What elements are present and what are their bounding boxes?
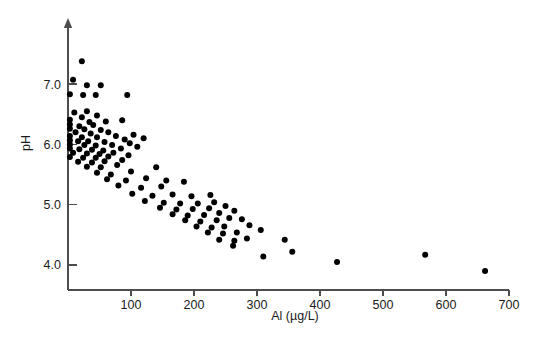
data-point <box>75 138 81 144</box>
data-point <box>231 208 237 214</box>
data-point <box>94 170 100 176</box>
data-point <box>104 176 110 182</box>
tick-labels-group: 1002003004005006007004.05.06.07.0 <box>44 78 520 312</box>
y-axis-arrow-icon <box>64 18 72 28</box>
data-point <box>98 127 104 133</box>
data-point <box>141 135 147 141</box>
data-point <box>89 147 95 153</box>
data-point <box>93 155 99 161</box>
data-point <box>158 184 164 190</box>
data-point <box>244 235 250 241</box>
data-point <box>181 179 187 185</box>
data-point <box>81 126 87 132</box>
data-point <box>153 164 159 170</box>
data-point <box>70 77 76 83</box>
data-point <box>94 134 100 140</box>
data-point <box>75 159 81 165</box>
data-point <box>105 153 111 159</box>
ticks-group <box>68 84 509 296</box>
data-point <box>188 193 194 199</box>
data-point <box>239 216 245 222</box>
data-point <box>289 249 295 255</box>
data-point <box>109 142 115 148</box>
data-point <box>182 217 188 223</box>
data-point <box>108 172 114 178</box>
y-tick-label: 4.0 <box>44 258 61 272</box>
x-tick-label: 100 <box>121 298 142 312</box>
data-point <box>98 82 104 88</box>
data-point <box>282 237 288 243</box>
data-point <box>103 118 109 124</box>
x-tick-label: 600 <box>436 298 457 312</box>
data-point <box>124 92 130 98</box>
data-point <box>93 92 99 98</box>
data-point <box>89 159 95 165</box>
data-point <box>119 117 125 123</box>
data-point <box>134 144 140 150</box>
data-point <box>71 109 77 115</box>
data-point <box>98 164 104 170</box>
y-tick-label: 5.0 <box>44 198 61 212</box>
data-point <box>201 212 207 218</box>
data-point <box>125 152 131 158</box>
data-point <box>79 58 85 64</box>
data-point <box>334 259 340 265</box>
data-point <box>142 198 148 204</box>
chart-canvas: 1002003004005006007004.05.06.07.0 Al (µg… <box>0 0 550 340</box>
data-point <box>90 122 96 128</box>
data-point <box>128 169 134 175</box>
x-axis-label: Al (µg/L) <box>271 309 319 323</box>
data-point <box>94 112 100 118</box>
data-point <box>258 227 264 233</box>
data-point <box>84 108 90 114</box>
data-point <box>119 157 125 163</box>
data-point <box>246 222 252 228</box>
data-point <box>157 205 163 211</box>
data-point <box>84 82 90 88</box>
data-point <box>190 206 196 212</box>
y-axis-label: pH <box>19 135 33 151</box>
data-point <box>67 154 73 160</box>
scatter-plot-figure: 1002003004005006007004.05.06.07.0 Al (µg… <box>0 0 550 340</box>
data-point <box>422 252 428 258</box>
data-point <box>115 182 121 188</box>
data-point <box>209 225 215 231</box>
y-tick-label: 7.0 <box>44 78 61 92</box>
data-point <box>170 211 176 217</box>
data-point <box>81 142 87 148</box>
data-point <box>123 178 129 184</box>
data-point <box>67 91 73 97</box>
data-point <box>177 200 183 206</box>
data-point <box>216 210 222 216</box>
data-point <box>170 191 176 197</box>
x-tick-label: 500 <box>373 298 394 312</box>
data-point <box>113 133 119 139</box>
data-point <box>88 131 94 137</box>
data-point <box>118 146 124 152</box>
data-point <box>163 178 169 184</box>
data-point <box>214 217 220 223</box>
data-point <box>211 199 217 205</box>
data-point <box>110 150 116 156</box>
data-point <box>482 268 488 274</box>
data-point <box>80 92 86 98</box>
data-point <box>161 200 167 206</box>
data-point <box>84 164 90 170</box>
data-point <box>194 223 200 229</box>
data-point <box>129 191 135 197</box>
x-tick-label: 300 <box>247 298 268 312</box>
data-points-group <box>67 58 488 274</box>
data-point <box>234 229 240 235</box>
data-point <box>216 237 222 243</box>
data-point <box>102 139 108 145</box>
x-tick-label: 700 <box>499 298 520 312</box>
data-point <box>76 146 82 152</box>
data-point <box>131 132 137 138</box>
x-tick-label: 200 <box>184 298 205 312</box>
data-point <box>76 123 82 129</box>
data-point <box>220 231 226 237</box>
y-tick-label: 6.0 <box>44 138 61 152</box>
data-point <box>173 207 179 213</box>
data-point <box>67 126 73 132</box>
data-point <box>195 200 201 206</box>
